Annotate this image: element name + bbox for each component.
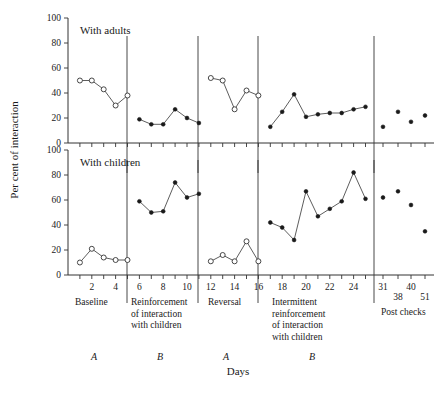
data-point <box>244 239 249 244</box>
panel-with-adults: 020406080100With adults <box>47 13 434 173</box>
data-point <box>125 93 130 98</box>
data-point <box>197 192 201 196</box>
y-tick-label: 100 <box>47 145 62 155</box>
x-tick-label: 24 <box>349 282 359 292</box>
phase-letter: A <box>222 351 230 362</box>
y-tick-label: 0 <box>56 270 61 280</box>
data-point <box>280 226 284 230</box>
y-tick-label: 60 <box>52 63 62 73</box>
phase-caption: of interaction <box>272 320 323 330</box>
data-point <box>381 196 385 200</box>
x-tick-label: 2 <box>89 282 94 292</box>
data-point <box>232 259 237 264</box>
data-point <box>364 105 368 109</box>
y-tick-label: 40 <box>52 220 62 230</box>
data-point <box>89 78 94 83</box>
data-point <box>423 229 427 233</box>
postcheck-tick-label: 31 <box>378 282 388 292</box>
x-tick-label: 4 <box>113 282 118 292</box>
data-point <box>161 122 165 126</box>
data-point <box>316 214 320 218</box>
data-point <box>256 93 261 98</box>
y-axis-label: Per cent of interaction <box>8 101 20 199</box>
y-tick-label: 80 <box>52 170 62 180</box>
postcheck-tick-label: 51 <box>420 292 430 302</box>
series-line <box>211 241 259 261</box>
data-point <box>280 110 284 114</box>
data-point <box>101 255 106 260</box>
y-tick-label: 20 <box>52 245 62 255</box>
y-tick-label: 80 <box>52 38 62 48</box>
data-point <box>208 259 213 264</box>
data-point <box>364 197 368 201</box>
data-point <box>232 107 237 112</box>
x-tick-label: 6 <box>137 282 142 292</box>
x-tick-label: 16 <box>254 282 264 292</box>
series-line <box>80 81 128 106</box>
data-point <box>423 114 427 118</box>
data-point <box>125 258 130 263</box>
phase-caption: Intermittent <box>272 297 317 307</box>
data-point <box>113 258 118 263</box>
y-tick-label: 20 <box>52 113 62 123</box>
phase-caption: with children <box>272 332 323 342</box>
data-point <box>173 107 177 111</box>
data-point <box>409 203 413 207</box>
data-point <box>292 238 296 242</box>
postcheck-tick-label: 38 <box>393 292 403 302</box>
data-point <box>304 115 308 119</box>
data-point <box>149 122 153 126</box>
data-point <box>149 211 153 215</box>
data-point <box>244 88 249 93</box>
phase-letter: B <box>309 351 315 362</box>
phase-caption: Post checks <box>381 307 426 317</box>
data-point <box>161 209 165 213</box>
data-point <box>328 207 332 211</box>
data-point <box>381 125 385 129</box>
y-tick-label: 40 <box>52 88 62 98</box>
chart-svg: Per cent of interaction020406080100With … <box>0 0 439 393</box>
data-point <box>316 112 320 116</box>
x-tick-label: 18 <box>277 282 287 292</box>
x-axis-label: Days <box>227 365 250 377</box>
data-point <box>138 117 142 121</box>
phase-caption: reinforcement <box>272 309 326 319</box>
x-tick-label: 10 <box>182 282 192 292</box>
x-tick-label: 14 <box>230 282 240 292</box>
data-point <box>292 92 296 96</box>
phase-caption: Baseline <box>75 297 108 307</box>
phase-caption: Reinforcement <box>131 297 188 307</box>
y-tick-label: 100 <box>47 13 62 23</box>
data-point <box>340 199 344 203</box>
panel-title: With children <box>80 156 141 168</box>
x-tick-label: 22 <box>325 282 335 292</box>
data-point <box>268 125 272 129</box>
series-line <box>211 78 259 109</box>
y-tick-label: 60 <box>52 195 62 205</box>
x-tick-label: 8 <box>161 282 166 292</box>
series-line <box>139 183 199 213</box>
data-point <box>352 107 356 111</box>
data-point <box>220 253 225 258</box>
series-line <box>139 109 199 124</box>
data-point <box>77 260 82 265</box>
data-point <box>138 199 142 203</box>
x-tick-label: 12 <box>206 282 216 292</box>
x-tick-label: 20 <box>301 282 311 292</box>
phase-caption: of interaction <box>131 309 182 319</box>
data-point <box>173 181 177 185</box>
data-point <box>113 103 118 108</box>
data-point <box>396 110 400 114</box>
figure-container: Per cent of interaction020406080100With … <box>0 0 439 393</box>
phase-letter: B <box>157 351 163 362</box>
panel-title: With adults <box>80 24 131 36</box>
series-line <box>270 173 365 241</box>
data-point <box>208 76 213 81</box>
phase-caption: Reversal <box>208 297 242 307</box>
data-point <box>256 259 261 264</box>
data-point <box>340 111 344 115</box>
data-point <box>352 171 356 175</box>
data-point <box>409 120 413 124</box>
postcheck-tick-label: 40 <box>406 282 416 292</box>
data-point <box>89 246 94 251</box>
